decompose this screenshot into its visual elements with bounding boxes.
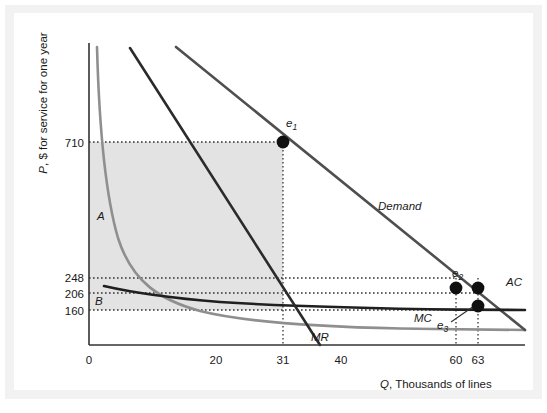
mc-curve-label: MC xyxy=(414,313,432,325)
x-tick-31: 31 xyxy=(274,355,292,367)
point-e2b[interactable] xyxy=(472,282,485,295)
x-tick-63: 63 xyxy=(469,355,487,367)
demand-curve-label: Demand xyxy=(378,201,421,213)
y-axis-rest: , $ for service for one year xyxy=(37,32,49,166)
x-tick-20: 20 xyxy=(207,355,225,367)
x-tick-0: 0 xyxy=(82,355,96,367)
point-e3[interactable] xyxy=(472,300,485,313)
x-axis-title: Q, Thousands of lines xyxy=(380,378,492,390)
y-tick-710: 710 xyxy=(52,138,84,150)
point-e1[interactable] xyxy=(277,136,290,149)
e3-subscript: 3 xyxy=(443,324,448,334)
shaded-region-a xyxy=(89,142,283,310)
y-axis-title: P, $ for service for one year xyxy=(37,23,49,183)
point-label-e1: e1 xyxy=(286,118,297,132)
region-label-a: A xyxy=(97,211,105,223)
figure-page: 710 248 206 160 0 20 31 40 60 63 A B Dem… xyxy=(0,0,547,413)
ac-curve-label: AC xyxy=(506,277,522,289)
economics-chart-svg xyxy=(0,0,547,413)
region-label-b: B xyxy=(95,296,103,308)
y-axis-symbol: P xyxy=(37,166,49,174)
point-label-e3: e3 xyxy=(437,320,448,334)
x-tick-40: 40 xyxy=(332,355,350,367)
point-e2[interactable] xyxy=(450,282,463,295)
y-tick-160: 160 xyxy=(52,306,84,318)
y-tick-206: 206 xyxy=(52,289,84,301)
e2-subscript: 2 xyxy=(458,272,463,282)
e1-subscript: 1 xyxy=(292,122,297,132)
point-label-e2: e2 xyxy=(452,268,463,282)
x-tick-60: 60 xyxy=(447,355,465,367)
mr-curve-label: MR xyxy=(311,332,329,344)
x-axis-symbol: Q xyxy=(380,378,389,390)
x-axis-rest: , Thousands of lines xyxy=(389,378,492,390)
y-tick-248: 248 xyxy=(52,273,84,285)
